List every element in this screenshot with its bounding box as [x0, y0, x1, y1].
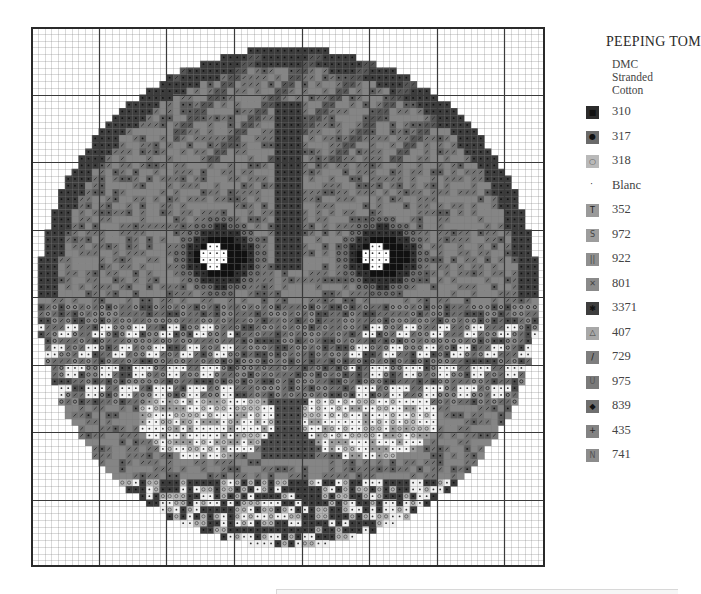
thread-symbol-icon: △: [586, 327, 599, 340]
subtitle-line: Stranded: [612, 71, 653, 84]
legend-item: S972: [580, 227, 677, 243]
thread-code-label: 741: [612, 447, 631, 462]
thread-code-label: 3371: [612, 300, 637, 315]
legend-item: ·Blanc: [580, 178, 677, 194]
thread-code-label: 317: [612, 129, 631, 144]
thread-code-label: 839: [612, 398, 631, 413]
legend-item: ◆839: [580, 398, 677, 414]
thread-symbol-icon: S: [586, 229, 599, 242]
thread-symbol-icon: N: [586, 449, 599, 462]
thread-code-label: 318: [612, 153, 631, 168]
thread-code-label: 310: [612, 104, 631, 119]
thread-symbol-icon: ■: [586, 106, 599, 119]
legend-item: ●317: [580, 129, 677, 145]
thread-code-label: 352: [612, 202, 631, 217]
thread-symbol-icon: ✕: [586, 278, 599, 291]
subtitle-line: Cotton: [612, 84, 653, 97]
legend-item: ○318: [580, 153, 677, 169]
thread-symbol-icon: ○: [586, 155, 599, 168]
thread-symbol-icon: ||: [586, 253, 599, 266]
thread-code-label: 435: [612, 423, 631, 438]
thread-symbol-icon: ●: [586, 131, 599, 144]
thread-code-label: 729: [612, 349, 631, 364]
legend-item: ■310: [580, 104, 677, 120]
scroll-edge: [276, 589, 678, 594]
thread-code-label: Blanc: [612, 178, 641, 193]
legend-item: U975: [580, 374, 677, 390]
thread-symbol-icon: U: [586, 376, 599, 389]
thread-code-label: 407: [612, 325, 631, 340]
legend-item: T352: [580, 202, 677, 218]
legend-item: △407: [580, 325, 677, 341]
thread-symbol-icon: ·: [586, 180, 597, 191]
thread-code-label: 975: [612, 374, 631, 389]
thread-symbol-icon: +: [586, 425, 599, 438]
legend-item: ✕801: [580, 276, 677, 292]
legend-item: +435: [580, 423, 677, 439]
thread-code-label: 972: [612, 227, 631, 242]
thread-code-label: 922: [612, 251, 631, 266]
thread-symbol-icon: /: [586, 351, 599, 364]
thread-code-label: 801: [612, 276, 631, 291]
legend-item: /729: [580, 349, 677, 365]
chart-title: PEEPING TOM: [606, 34, 701, 50]
legend-item: ||922: [580, 251, 677, 267]
legend-item: ✱3371: [580, 300, 677, 316]
thread-symbol-icon: T: [586, 204, 599, 217]
stitch-grid-canvas: [31, 27, 545, 567]
thread-symbol-icon: ✱: [586, 302, 599, 315]
legend-subtitle: DMC Stranded Cotton: [612, 58, 653, 97]
legend-item: N741: [580, 447, 677, 463]
subtitle-line: DMC: [612, 58, 653, 71]
thread-symbol-icon: ◆: [586, 400, 599, 413]
cross-stitch-chart: [31, 27, 545, 567]
